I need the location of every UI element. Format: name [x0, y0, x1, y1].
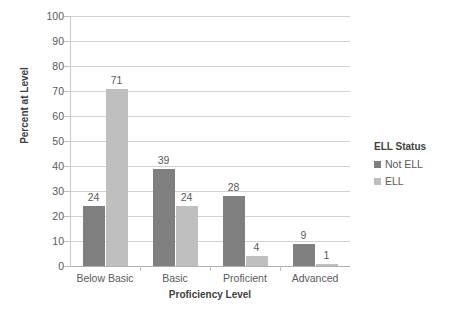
y-tick-mark — [64, 216, 70, 217]
y-tick-mark — [64, 16, 70, 17]
y-tick-mark — [64, 266, 70, 267]
y-tick-label: 10 — [34, 236, 64, 246]
y-tick-label: 30 — [34, 186, 64, 196]
bar[interactable] — [223, 196, 245, 266]
x-tick-label: Proficient — [210, 272, 280, 284]
bar[interactable] — [316, 264, 338, 267]
legend-item[interactable]: ELL — [374, 175, 448, 187]
y-tick-label: 0 — [34, 261, 64, 271]
y-tick-mark — [64, 241, 70, 242]
bar[interactable] — [83, 206, 105, 266]
legend-title: ELL Status — [374, 141, 448, 152]
y-tick-label: 50 — [34, 136, 64, 146]
y-tick-mark — [64, 66, 70, 67]
bar-value-label: 9 — [287, 230, 321, 241]
bar-value-label: 71 — [100, 75, 134, 86]
x-tick-mark — [210, 266, 211, 271]
bar-group: 284 — [210, 16, 280, 266]
y-tick-mark — [64, 191, 70, 192]
x-tick-label: Advanced — [280, 272, 350, 284]
y-tick-mark — [64, 141, 70, 142]
x-tick-mark — [140, 266, 141, 271]
y-tick-label: 100 — [34, 11, 64, 21]
y-tick-label: 20 — [34, 211, 64, 221]
y-tick-label: 80 — [34, 61, 64, 71]
y-tick-label: 40 — [34, 161, 64, 171]
bar[interactable] — [153, 169, 175, 267]
legend-items: Not ELLELL — [374, 158, 448, 187]
y-tick-mark — [64, 91, 70, 92]
legend-swatch-icon — [374, 161, 381, 168]
y-tick-label: 60 — [34, 111, 64, 121]
y-tick-mark — [64, 116, 70, 117]
y-tick-mark — [64, 166, 70, 167]
x-tick-mark — [280, 266, 281, 271]
bar-value-label: 39 — [147, 155, 181, 166]
y-axis-title: Percent at Level — [19, 46, 30, 166]
x-axis-title: Proficiency Level — [70, 289, 350, 300]
legend-label: ELL — [385, 175, 404, 187]
x-tick-label: Basic — [140, 272, 210, 284]
bar-group: 2471 — [70, 16, 140, 266]
y-tick-label: 70 — [34, 86, 64, 96]
bar-group: 3924 — [140, 16, 210, 266]
bar-group: 91 — [280, 16, 350, 266]
y-tick-label: 90 — [34, 36, 64, 46]
plot-area: 2471392428491 — [70, 16, 350, 266]
bar-value-label: 28 — [217, 182, 251, 193]
legend-item[interactable]: Not ELL — [374, 158, 448, 170]
bar-value-label: 4 — [240, 242, 274, 253]
bar[interactable] — [246, 256, 268, 266]
bar[interactable] — [106, 89, 128, 267]
x-tick-label: Below Basic — [70, 272, 140, 284]
bar-value-label: 1 — [310, 250, 344, 261]
bar-value-label: 24 — [170, 192, 204, 203]
legend-swatch-icon — [374, 178, 381, 185]
legend: ELL Status Not ELLELL — [374, 141, 448, 192]
y-tick-mark — [64, 41, 70, 42]
bar[interactable] — [176, 206, 198, 266]
legend-label: Not ELL — [385, 158, 423, 170]
bar-chart: Percent at Level 2471392428491 010203040… — [0, 0, 450, 325]
